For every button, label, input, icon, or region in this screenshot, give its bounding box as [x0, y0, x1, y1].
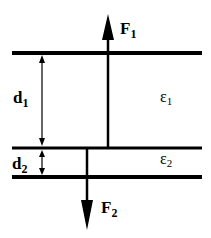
- label-epsilon-2: ε2: [160, 150, 172, 169]
- label-d1: d1: [13, 88, 28, 110]
- label-d2: d2: [12, 154, 27, 176]
- arrowhead-up-icon: [102, 14, 114, 40]
- arrowhead-up-icon: [39, 150, 45, 157]
- arrowhead-up-icon: [39, 55, 45, 63]
- force-f1-arrow: [102, 14, 114, 148]
- capacitor-force-diagram: F1 F2 d1 d2 ε1 ε2: [0, 0, 211, 238]
- dimension-d1: [39, 55, 45, 146]
- label-epsilon-1: ε1: [160, 88, 172, 107]
- label-f2: F2: [101, 198, 117, 220]
- arrowhead-down-icon: [81, 200, 93, 230]
- dimension-d2: [39, 150, 45, 175]
- arrowhead-down-icon: [39, 168, 45, 175]
- label-f1: F1: [120, 19, 136, 41]
- force-f2-arrow: [81, 148, 93, 230]
- arrowhead-down-icon: [39, 138, 45, 146]
